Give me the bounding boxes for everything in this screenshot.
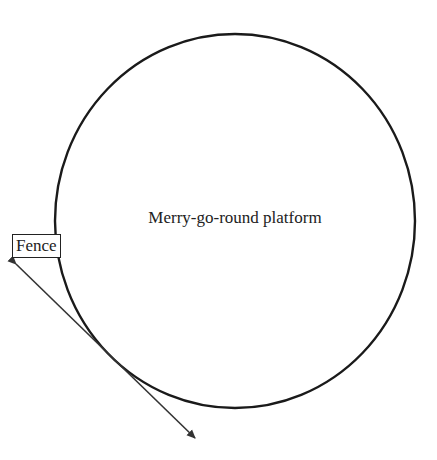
diagram-graphics: [0, 0, 437, 460]
platform-label: Merry-go-round platform: [112, 208, 358, 228]
fence-arrow: [16, 264, 195, 438]
fence-label: Fence: [12, 234, 61, 258]
diagram-canvas: Merry-go-round platform Fence: [0, 0, 437, 460]
